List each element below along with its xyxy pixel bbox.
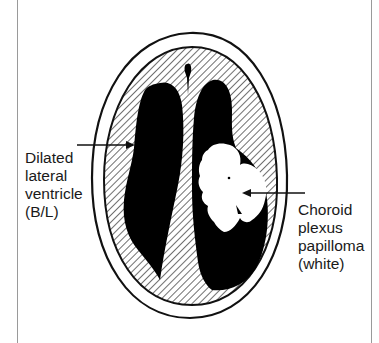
label-dilated-lateral-ventricle: Dilated lateral ventricle (B/L) bbox=[25, 149, 83, 221]
label-line: Choroid bbox=[298, 201, 364, 219]
label-line: Dilated bbox=[25, 149, 83, 167]
label-line: (white) bbox=[298, 255, 364, 273]
label-line: (B/L) bbox=[25, 203, 83, 221]
label-line: ventricle bbox=[25, 185, 83, 203]
label-choroid-plexus-papilloma: Choroid plexus papilloma (white) bbox=[298, 201, 364, 273]
label-line: papilloma bbox=[298, 237, 364, 255]
label-line: plexus bbox=[298, 219, 364, 237]
label-line: lateral bbox=[25, 167, 83, 185]
